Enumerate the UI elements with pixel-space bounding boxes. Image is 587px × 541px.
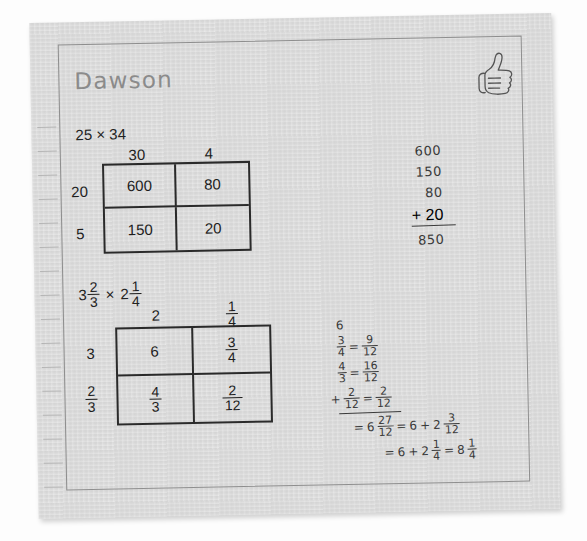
p2-frac-2: 1 4 (129, 279, 141, 309)
problem-2-area-model-grid: 6 3 4 4 3 2 12 (115, 324, 273, 425)
problem-1-title: 25 × 34 (75, 125, 126, 143)
work-conversion-3: + 2 12 = 2 12 (330, 382, 475, 410)
p2-operator: × (100, 286, 119, 303)
addend: 150 (380, 163, 454, 181)
problem-2-title: 3 2 3 × 2 1 4 (78, 279, 142, 310)
scanned-worksheet-image: Dawson 25 × 34 30 4 20 5 600 80 150 20 (0, 0, 587, 541)
work-result-2: = 6 + 2 1 4 = 8 1 4 (384, 437, 477, 463)
work-conversion-2: 4 3 = 16 12 (337, 356, 474, 384)
grid-cell: 6 (117, 328, 194, 376)
paper-sheet: Dawson 25 × 34 30 4 20 5 600 80 150 20 (29, 13, 560, 519)
grid-cell: 600 (104, 164, 177, 208)
problem-1-row-header-1: 20 (64, 170, 95, 213)
problem-1-column-addition: 600 150 80 + 20 850 (379, 142, 457, 250)
grid-cell: 4 3 (118, 375, 195, 423)
addend: 600 (379, 142, 453, 160)
problem-2-row-header-1: 3 (75, 330, 106, 377)
problem-1-row-header-2: 5 (65, 212, 96, 255)
grid-cell: 3 4 (193, 327, 270, 375)
p2-frac-1: 2 3 (88, 280, 100, 310)
problem-1-col-header-2: 4 (174, 144, 244, 162)
grid-cell: 150 (105, 207, 178, 251)
problem-1-area-model-grid: 600 80 150 20 (102, 161, 252, 254)
addend-last: + 20 (411, 205, 455, 227)
work-conversion-1: 3 4 = 9 12 (336, 330, 473, 358)
addition-sum: 850 (418, 231, 457, 247)
grid-cell: 80 (176, 163, 249, 207)
problem-2-handwritten-work: 6 3 4 = 9 12 4 3 = 16 (336, 313, 478, 468)
addend: 80 (380, 184, 454, 202)
p2-whole-2: 2 (120, 285, 129, 302)
problem-1-col-header-1: 30 (102, 145, 172, 163)
work-result-1: = 6 27 12 = 6 + 2 3 12 (353, 411, 476, 438)
student-name: Dawson (74, 66, 173, 94)
grid-cell: 2 12 (194, 373, 271, 421)
problem-2-row-header-2: 2 3 (76, 376, 107, 423)
thumbs-up-icon (472, 48, 517, 103)
grid-cell: 20 (177, 206, 250, 250)
problem-2-col-header-1: 2 (119, 306, 193, 324)
p2-whole-1: 3 (78, 286, 87, 303)
